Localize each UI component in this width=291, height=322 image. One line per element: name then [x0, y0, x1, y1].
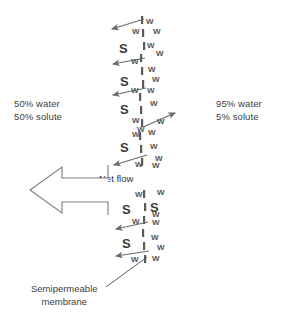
water-molecule: W: [131, 256, 139, 264]
membrane-segment: [143, 42, 145, 50]
water-molecule: W: [157, 244, 165, 252]
membrane-segment: [143, 242, 145, 250]
water-molecule: W: [151, 234, 159, 242]
membrane-segment: [142, 80, 144, 88]
membrane-segment: [143, 190, 145, 198]
membrane-segment: [142, 29, 144, 37]
water-molecule: W: [150, 100, 158, 108]
membrane-segment: [144, 203, 146, 211]
water-molecule: W: [131, 87, 139, 95]
membrane-leader-line: [106, 257, 147, 287]
water-molecule: W: [132, 117, 140, 125]
solute-molecule: S: [120, 103, 129, 116]
membrane-segment: [140, 106, 142, 114]
water-molecule: W: [152, 76, 160, 84]
diagram-vector-layer: [0, 0, 291, 322]
water-molecule: W: [135, 191, 143, 199]
membrane-segment: [139, 93, 141, 101]
semipermeable-membrane: [139, 16, 146, 263]
water-molecule: W: [148, 129, 156, 137]
water-molecule: W: [156, 50, 164, 58]
solute-molecule: S: [122, 237, 131, 250]
osmosis-diagram: 50% water 50% solute 95% water 5% solute…: [0, 0, 291, 322]
water-molecule: W: [147, 42, 155, 50]
membrane-segment: [141, 67, 143, 75]
membrane-segment: [140, 145, 142, 153]
water-molecule: W: [152, 255, 160, 263]
water-molecule: W: [148, 66, 156, 74]
water-molecule: W: [152, 162, 160, 170]
water-molecule: W: [157, 118, 165, 126]
water-molecule: W: [147, 87, 155, 95]
water-molecule: W: [152, 219, 160, 227]
membrane-segment: [140, 54, 142, 62]
solute-molecule: S: [122, 203, 131, 216]
water-molecule: W: [132, 218, 140, 226]
water-molecule: W: [150, 143, 158, 151]
water-molecule: W: [135, 161, 143, 169]
membrane-segment: [142, 229, 144, 237]
water-molecule: W: [153, 28, 161, 36]
net-flow-arrow: [30, 165, 108, 215]
water-molecule: W: [132, 28, 140, 36]
water-molecule: W: [131, 58, 139, 66]
solute-molecule: S: [120, 75, 129, 88]
water-molecule: W: [132, 131, 140, 139]
solute-molecule: S: [119, 42, 128, 55]
water-molecule: W: [146, 18, 154, 26]
solute-molecule: S: [120, 141, 129, 154]
water-molecule: W: [157, 189, 165, 197]
